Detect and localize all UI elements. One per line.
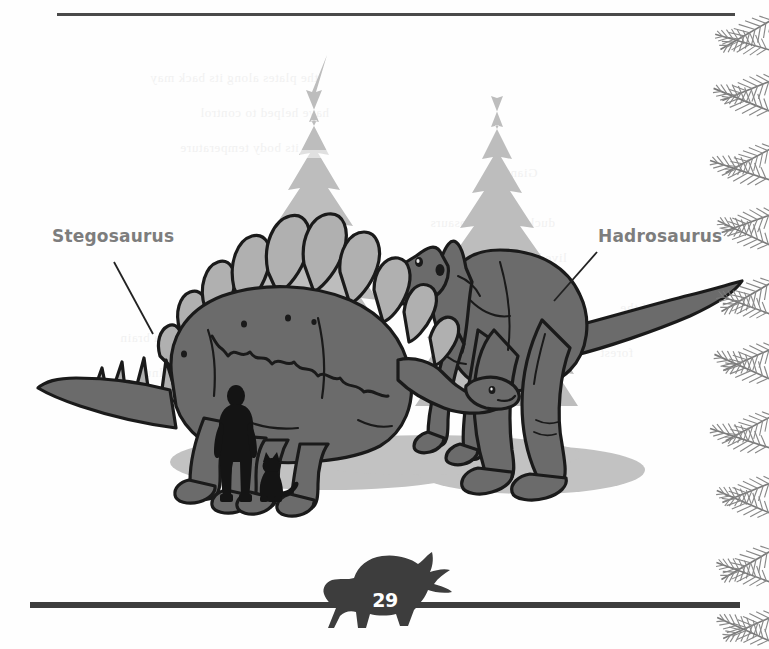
triceratops-page-marker [0,0,769,649]
species-label-hadrosaurus: Hadrosaurus [598,226,722,246]
book-page: the plates along its back mayhave helped… [0,0,769,649]
page-number: 29 [358,589,412,611]
species-label-stegosaurus: Stegosaurus [52,226,174,246]
